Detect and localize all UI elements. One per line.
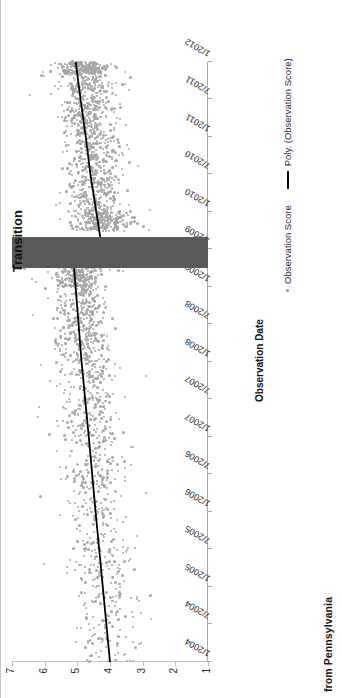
y-tick-label: 3: [137, 668, 147, 688]
transition-label: Transition: [10, 210, 25, 272]
transition-band: [12, 237, 208, 268]
y-tick-label: 1: [202, 668, 212, 688]
x-tick: [208, 249, 212, 250]
x-tick: [208, 324, 212, 325]
x-tick: [208, 511, 212, 512]
trendline-post-transition: [76, 62, 101, 237]
x-tick: [208, 474, 212, 475]
x-tick: [208, 361, 212, 362]
legend-dot-icon: [286, 289, 289, 292]
y-tick: [45, 662, 46, 666]
x-tick: [208, 549, 212, 550]
y-tick-label: 2: [169, 668, 179, 688]
y-tick: [175, 662, 176, 666]
trendline-pre-transition: [74, 268, 110, 662]
y-tick-label: 6: [39, 668, 49, 688]
x-tick: [208, 624, 212, 625]
y-tick-label: 7: [6, 668, 16, 688]
legend-item[interactable]: Poly. (Observation Score): [282, 58, 293, 189]
x-tick-label: 1/2012: [183, 37, 212, 59]
legend-label: Poly. (Observation Score): [282, 58, 293, 166]
x-tick: [208, 136, 212, 137]
y-tick: [143, 662, 144, 666]
plot-area: 1234567 1/20047/20041/20057/20051/20067/…: [12, 62, 208, 662]
y-tick: [110, 662, 111, 666]
x-tick: [208, 586, 212, 587]
y-tick: [12, 662, 13, 666]
legend-line-icon: [287, 171, 289, 189]
trendline-layer: [12, 62, 208, 662]
y-tick-label: 4: [104, 668, 114, 688]
x-tick: [208, 99, 212, 100]
x-tick: [208, 61, 212, 62]
figure-caption: from Pennsylvania: [322, 597, 334, 692]
x-tick: [208, 174, 212, 175]
y-tick-label: 5: [71, 668, 81, 688]
chart-legend: Observation ScorePoly. (Observation Scor…: [282, 58, 293, 292]
legend-label: Observation Score: [282, 205, 293, 284]
x-tick: [208, 399, 212, 400]
y-tick: [208, 662, 209, 666]
y-tick: [77, 662, 78, 666]
x-tick: [208, 661, 212, 662]
page-rule: [0, 0, 1, 698]
x-tick: [208, 436, 212, 437]
x-axis-title: Observation Date: [254, 319, 265, 402]
legend-item[interactable]: Observation Score: [282, 205, 293, 292]
x-tick: [208, 286, 212, 287]
x-tick: [208, 211, 212, 212]
figure-stage: from Pennsylvania 1234567 1/20047/20041/…: [0, 0, 342, 698]
